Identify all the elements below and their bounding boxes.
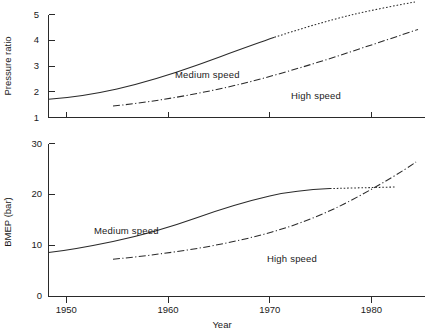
y-tick-label-top-3: 3 — [34, 60, 39, 71]
y-axis-label-pressure-ratio: Pressure ratio — [2, 36, 13, 95]
y-tick-label-bottom-0: 0 — [37, 290, 42, 301]
y-tick-label-top-5: 5 — [34, 9, 39, 20]
y-tick-label-top-1: 1 — [34, 112, 39, 123]
y-tick-label-top-4: 4 — [34, 34, 39, 45]
series-label-top-medium-speed: Medium speed — [175, 69, 240, 80]
panel-pressure-ratio: Pressure ratio 5 4 3 2 1 — [2, 2, 425, 123]
y-tick-label-bottom-30: 30 — [31, 138, 42, 149]
curve-top-medium-speed-projected — [275, 2, 416, 37]
x-axis-label-year: Year — [212, 319, 231, 330]
series-label-bottom-medium-speed: Medium speed — [94, 225, 159, 236]
x-tick-label-1960: 1960 — [157, 304, 178, 315]
x-tick-label-1970: 1970 — [259, 304, 280, 315]
x-tick-label-1980: 1980 — [361, 304, 382, 315]
chart-svg: Pressure ratio 5 4 3 2 1 — [0, 0, 428, 333]
curve-top-medium-speed-solid — [49, 37, 275, 99]
y-tick-label-top-2: 2 — [34, 86, 39, 97]
y-tick-label-bottom-10: 10 — [31, 239, 42, 250]
y-axis-label-bmep: BMEP (bar) — [2, 197, 13, 246]
curve-bottom-medium-speed-projected — [330, 187, 395, 189]
curve-bottom-medium-speed-solid — [49, 189, 331, 253]
series-label-top-high-speed: High speed — [291, 90, 341, 101]
x-tick-label-1950: 1950 — [56, 304, 77, 315]
y-tick-label-bottom-20: 20 — [31, 188, 42, 199]
series-label-bottom-high-speed: High speed — [267, 253, 317, 264]
curve-bottom-high-speed — [113, 162, 416, 259]
figure-container: Pressure ratio 5 4 3 2 1 — [0, 0, 428, 333]
panel-bmep: BMEP (bar) 30 20 10 0 1950 1960 1970 198… — [2, 138, 425, 330]
